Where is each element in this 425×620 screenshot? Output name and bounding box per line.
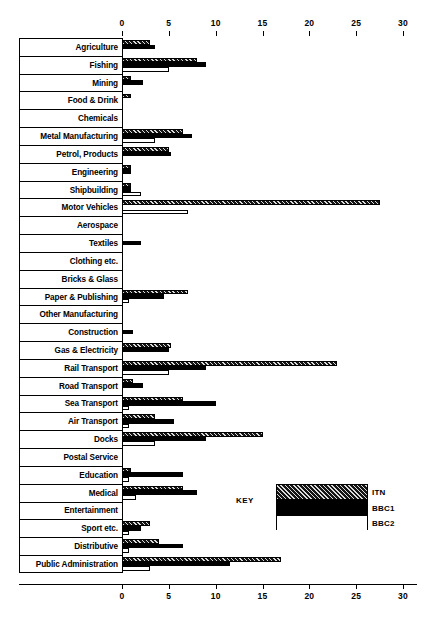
category-label-row: Mining (20, 75, 122, 93)
category-label: Paper & Publishing (45, 293, 118, 302)
bar-group-row (122, 127, 423, 145)
legend-label-bbc1: BBC1 (372, 504, 395, 513)
x-tick-mark-25 (356, 31, 357, 36)
bar-bbc1 (122, 80, 143, 85)
category-label: Food & Drink (68, 96, 118, 105)
category-label: Shipbuilding (70, 186, 118, 195)
bar-bbc1 (122, 401, 216, 406)
bar-group-row (122, 252, 423, 270)
bar-group-row (122, 288, 423, 306)
category-label-row: Postal Service (20, 449, 122, 467)
category-label-row: Road Transport (20, 378, 122, 396)
legend-key-label: KEY (236, 496, 254, 505)
bar-bbc2 (122, 495, 136, 500)
category-label-row: Education (20, 467, 122, 485)
category-label-row: Metal Manufacturing (20, 128, 122, 146)
legend-label-bbc2: BBC2 (372, 519, 395, 528)
category-label: Metal Manufacturing (40, 132, 118, 141)
category-label: Petrol, Products (56, 150, 118, 159)
category-label: Aerospace (77, 221, 118, 230)
x-tick-label-10: 10 (211, 18, 221, 28)
legend-swatch-itn (277, 485, 367, 500)
bar-group-row (122, 234, 423, 252)
category-label: Entertainment (64, 506, 118, 515)
bar-group-row (122, 395, 423, 413)
axis-bottom: 051015202530 (0, 584, 425, 606)
legend-swatch-box (276, 484, 368, 530)
x-tick-mark-30 (403, 31, 404, 36)
bar-group-row (122, 537, 423, 555)
category-label-row: Petrol, Products (20, 146, 122, 164)
x-tick-mark-20 (309, 31, 310, 36)
x-tick-label-20: 20 (304, 18, 314, 28)
category-label-row: Gas & Electricity (20, 342, 122, 360)
bar-itn (122, 200, 380, 205)
bar-group-row (122, 181, 423, 199)
category-label-column: AgricultureFishingMiningFood & DrinkChem… (19, 38, 123, 573)
bar-bbc2 (122, 441, 155, 446)
x-tick-label-10: 10 (211, 591, 221, 601)
bar-bbc1 (122, 169, 131, 174)
x-tick-label-25: 25 (351, 591, 361, 601)
category-label-row: Sport etc. (20, 520, 122, 538)
x-tick-label-15: 15 (258, 18, 268, 28)
category-label-row: Distributive (20, 538, 122, 556)
category-label: Fishing (90, 61, 118, 70)
x-tick-label-0: 0 (120, 18, 125, 28)
bar-bbc2 (122, 370, 169, 375)
bar-bbc1 (122, 330, 133, 335)
category-label: Sea Transport (65, 399, 118, 408)
bar-group-row (122, 109, 423, 127)
category-label-row: Engineering (20, 164, 122, 182)
category-label-row: Docks (20, 431, 122, 449)
category-label: Other Manufacturing (39, 310, 118, 319)
bar-group-row (122, 163, 423, 181)
x-tick-label-30: 30 (398, 591, 408, 601)
category-label: Postal Service (63, 453, 118, 462)
category-label-row: Food & Drink (20, 92, 122, 110)
bar-chart: 051015202530 051015202530 AgricultureFis… (0, 0, 425, 620)
category-label-row: Aerospace (20, 217, 122, 235)
x-tick-label-15: 15 (258, 591, 268, 601)
category-label-row: Air Transport (20, 413, 122, 431)
bar-group-row (122, 555, 423, 573)
bar-bbc1 (122, 241, 141, 246)
axis-top: 051015202530 (0, 18, 425, 40)
x-tick-label-30: 30 (398, 18, 408, 28)
legend-swatch-bbc2 (277, 516, 367, 531)
bar-bbc1 (122, 544, 183, 549)
bar-bbc2 (122, 138, 155, 143)
bar-group-row (122, 305, 423, 323)
bar-group-row (122, 216, 423, 234)
bar-group-row (122, 466, 423, 484)
category-label-row: Motor Vehicles (20, 199, 122, 217)
bar-group-row (122, 377, 423, 395)
bar-bbc1 (122, 419, 174, 424)
bar-itn (122, 94, 131, 99)
x-tick-mark-15 (263, 31, 264, 36)
bar-bbc2 (122, 67, 169, 72)
category-label-row: Paper & Publishing (20, 289, 122, 307)
category-label: Chemicals (78, 114, 118, 123)
category-label: Sport etc. (81, 524, 118, 533)
bar-bbc1 (122, 348, 169, 353)
category-label-row: Fishing (20, 57, 122, 75)
category-label: Construction (68, 328, 118, 337)
category-label-row: Medical (20, 485, 122, 503)
category-label: Air Transport (68, 417, 118, 426)
category-label-row: Construction (20, 324, 122, 342)
legend-label-itn: ITN (372, 488, 386, 497)
category-label-row: Chemicals (20, 110, 122, 128)
bar-group-row (122, 198, 423, 216)
category-label: Clothing etc. (70, 257, 118, 266)
category-label: Textiles (89, 239, 118, 248)
bar-bbc2 (122, 566, 150, 571)
category-label: Medical (89, 489, 118, 498)
bar-group-row (122, 56, 423, 74)
category-label: Road Transport (59, 382, 118, 391)
bar-group-row (122, 341, 423, 359)
category-label: Motor Vehicles (62, 203, 118, 212)
bar-group-row (122, 74, 423, 92)
x-tick-label-5: 5 (166, 591, 171, 601)
category-label-row: Rail Transport (20, 360, 122, 378)
